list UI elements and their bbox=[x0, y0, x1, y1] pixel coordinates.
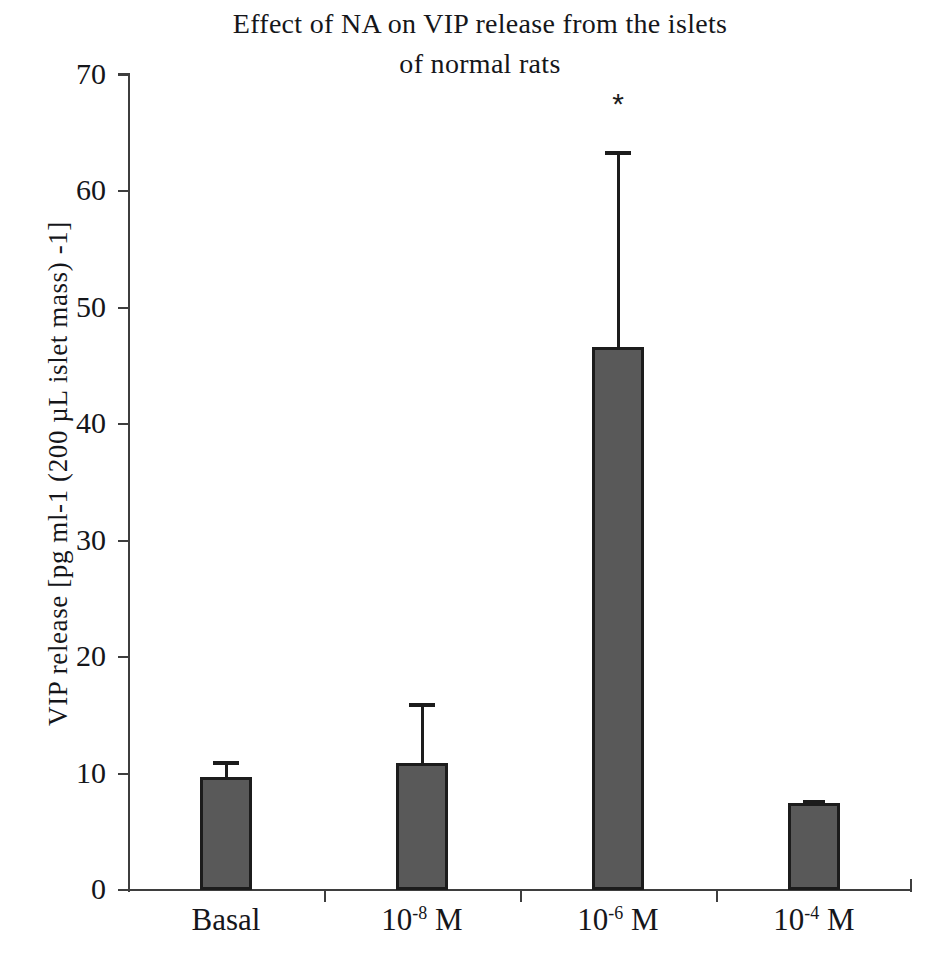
x-tick-label: 10-4 M bbox=[704, 898, 924, 942]
x-tick-label: Basal bbox=[116, 898, 336, 942]
y-tick-mark bbox=[118, 190, 130, 192]
exponent: -8 bbox=[412, 903, 427, 923]
y-tick-label: 40 bbox=[36, 408, 106, 438]
y-tick-mark bbox=[118, 540, 130, 542]
exponent: -4 bbox=[804, 903, 819, 923]
bar bbox=[592, 347, 644, 890]
chart-title: Effect of NA on VIP release from the isl… bbox=[130, 4, 830, 84]
error-bar-stem bbox=[617, 151, 620, 348]
x-axis-right-cap bbox=[910, 879, 912, 892]
y-tick-label: 0 bbox=[36, 874, 106, 904]
y-axis-line bbox=[128, 73, 130, 892]
error-bar-cap bbox=[803, 800, 825, 804]
y-tick-label: 60 bbox=[36, 175, 106, 205]
y-axis-title: VIP release [pg ml-1 (200 µL islet mass)… bbox=[43, 94, 74, 854]
y-tick-label: 10 bbox=[36, 758, 106, 788]
error-bar-cap bbox=[605, 151, 631, 155]
y-tick-mark bbox=[118, 656, 130, 658]
y-tick-mark bbox=[118, 74, 130, 76]
significance-asterisk: * bbox=[588, 89, 648, 119]
y-tick-mark bbox=[118, 773, 130, 775]
bar bbox=[788, 803, 840, 890]
y-tick-label: 70 bbox=[36, 59, 106, 89]
x-tick-label: 10-8 M bbox=[312, 898, 532, 942]
y-tick-mark bbox=[118, 889, 130, 891]
error-bar-cap bbox=[409, 703, 435, 707]
exponent: -6 bbox=[608, 903, 623, 923]
y-tick-mark bbox=[118, 307, 130, 309]
error-bar-stem bbox=[421, 703, 424, 764]
x-tick-label: 10-6 M bbox=[508, 898, 728, 942]
error-bar-cap bbox=[213, 761, 239, 765]
y-tick-label: 50 bbox=[36, 292, 106, 322]
y-tick-label: 30 bbox=[36, 525, 106, 555]
bar bbox=[396, 763, 448, 890]
y-tick-mark bbox=[118, 423, 130, 425]
y-tick-label: 20 bbox=[36, 641, 106, 671]
bar bbox=[200, 777, 252, 890]
bar-chart-figure: Effect of NA on VIP release from the isl… bbox=[0, 0, 943, 953]
